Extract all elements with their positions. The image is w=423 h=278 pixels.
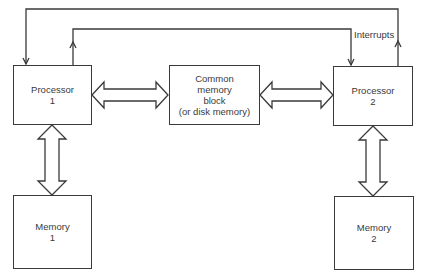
memory-1-node: Memory 1 <box>13 195 92 269</box>
common-memory-line2: memory <box>197 84 231 95</box>
processor-2-label: Processor <box>352 85 395 96</box>
interrupts-label: Interrupts <box>354 29 394 40</box>
bus-arrow-p2-mem2 <box>359 126 387 196</box>
processor-2-node: Processor 2 <box>333 66 413 126</box>
memory-2-node: Memory 2 <box>334 196 414 270</box>
memory-1-number: 1 <box>50 232 55 243</box>
bus-arrow-p1-common <box>92 82 168 108</box>
bus-arrow-p1-mem1 <box>38 125 66 195</box>
memory-2-number: 2 <box>371 233 376 244</box>
common-memory-node: Common memory block (or disk memory) <box>169 65 260 125</box>
processor-2-number: 2 <box>370 96 375 107</box>
bus-arrow-common-p2 <box>260 82 333 108</box>
processor-1-node: Processor 1 <box>13 65 92 125</box>
memory-2-label: Memory <box>357 222 391 233</box>
common-memory-line3: block <box>203 95 225 106</box>
memory-1-label: Memory <box>35 221 69 232</box>
interrupt-line-p2-to-p1 <box>26 9 398 66</box>
processor-1-label: Processor <box>31 84 74 95</box>
common-memory-line4: (or disk memory) <box>179 106 250 117</box>
common-memory-line1: Common <box>195 73 234 84</box>
interrupt-line-p1-to-p2 <box>73 29 351 65</box>
processor-1-number: 1 <box>50 95 55 106</box>
